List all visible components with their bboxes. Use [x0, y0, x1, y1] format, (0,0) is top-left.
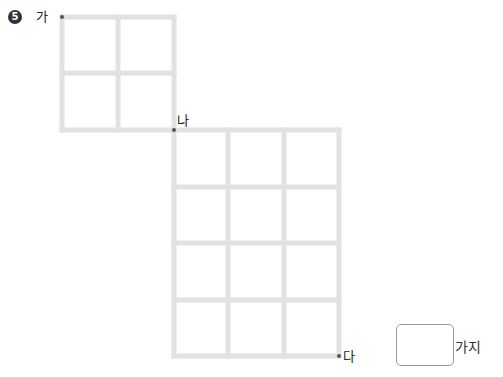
road-grid-diagram: [0, 0, 503, 377]
point-end: [337, 354, 341, 358]
answer-input-box[interactable]: [396, 324, 454, 366]
answer-unit-label: 가지: [455, 336, 481, 356]
point-start: [60, 15, 64, 19]
large-grid: [174, 130, 339, 356]
small-grid: [62, 17, 174, 130]
point-middle: [172, 128, 176, 132]
